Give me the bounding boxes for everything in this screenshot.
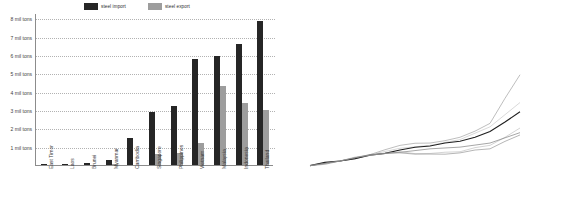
line-series-path [310, 75, 520, 166]
bar-x-tick-label: Laos [69, 158, 75, 169]
bar-x-tick-label: Brunei [91, 155, 97, 169]
bar-group [127, 13, 140, 165]
bar-y-tick-label: 7 mil tons [1, 35, 32, 41]
bar-y-tick-label: 1 mil tons [1, 145, 32, 151]
bar-y-tick-label: 4 mil tons [1, 90, 32, 96]
legend-swatch-dark-icon [84, 3, 98, 10]
bar-import [62, 164, 68, 165]
legend-item-steel-import: steel import [84, 3, 126, 10]
line-series-path [310, 103, 520, 166]
bar-x-tick-label: Cambodia [134, 146, 140, 169]
bar-group [84, 13, 97, 165]
legend-swatch-grey-icon [148, 3, 162, 10]
legend-item-steel-export: steel export [148, 3, 190, 10]
bar-x-tick-label: Singapore [156, 146, 162, 169]
line-chart-svg [285, 0, 569, 203]
bar-y-tick-label: 6 mil tons [1, 53, 32, 59]
bar-group [62, 13, 75, 165]
bar-group [235, 13, 248, 165]
bar-x-tick-label: Philippines [178, 145, 184, 169]
bar-y-tick-label: 5 mil tons [1, 71, 32, 77]
line-series-path [310, 112, 520, 166]
bar-group [170, 13, 183, 165]
bar-chart-legend: steel import steel export [84, 1, 234, 12]
steel-trade-bar-chart: steel import steel export 8 mil tons7 mi… [0, 0, 285, 203]
bar-x-tick-label: Myanmar [113, 148, 119, 169]
bar-group [149, 13, 162, 165]
bar-group [213, 13, 226, 165]
bar-x-tick-label: Vietnam [199, 151, 205, 169]
bar-y-tick-label: 3 mil tons [1, 108, 32, 114]
bar-x-tick-label: Thailand [264, 150, 270, 169]
growth-index-line-chart: % 0100200300400500600700800900 199119931… [285, 0, 569, 203]
bar-x-tick-label: East Timor [48, 145, 54, 169]
bar-import [41, 164, 47, 165]
legend-label-steel-import: steel import [101, 4, 126, 9]
bar-x-tick-label: Indonesia [243, 147, 249, 169]
bar-x-tick-label: Malaysia [221, 149, 227, 169]
bar-group [257, 13, 270, 165]
bar-group [192, 13, 205, 165]
legend-label-steel-export: steel export [165, 4, 190, 9]
bar-y-tick-label: 8 mil tons [1, 16, 32, 22]
bar-import [84, 163, 90, 165]
chart-page: steel import steel export 8 mil tons7 mi… [0, 0, 569, 203]
bar-plot-area [35, 14, 273, 166]
bar-group [40, 13, 53, 165]
bar-import [127, 138, 133, 165]
bar-y-tick-label: 2 mil tons [1, 126, 32, 132]
bar-group [105, 13, 118, 165]
